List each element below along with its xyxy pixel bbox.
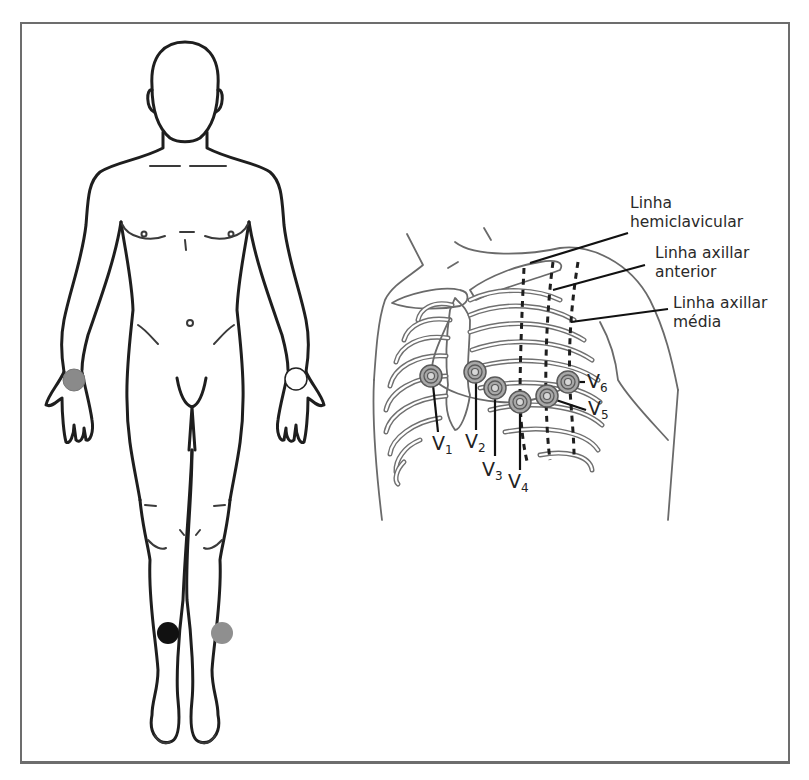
label-line2: média: [673, 313, 767, 332]
label-v2: V2: [465, 431, 486, 458]
lead-letter: V: [588, 397, 601, 419]
label-linha-hemiclavicular: Linha hemiclavicular: [630, 194, 743, 232]
lead-number: 2: [478, 441, 486, 455]
lead-number: 3: [495, 469, 503, 483]
electrode-v5: [536, 385, 558, 407]
electrode-v6: [557, 371, 579, 393]
label-line2: hemiclavicular: [630, 213, 743, 232]
label-line1: Linha: [630, 194, 743, 213]
label-v3: V3: [482, 459, 503, 486]
label-line2: anterior: [655, 263, 749, 282]
electrode-v2: [464, 361, 486, 383]
lead-number: 1: [445, 443, 453, 457]
precordial-electrodes: [0, 0, 809, 780]
lead-letter: V: [508, 470, 521, 492]
label-v4: V4: [508, 471, 529, 498]
electrode-v1: [420, 365, 442, 387]
label-linha-axillar-media: Linha axillar média: [673, 294, 767, 332]
lead-letter: V: [482, 458, 495, 480]
lead-letter: V: [432, 432, 445, 454]
label-v1: V1: [432, 433, 453, 460]
lead-letter: V: [587, 370, 600, 392]
lead-number: 4: [521, 481, 529, 495]
label-line1: Linha axillar: [673, 294, 767, 313]
label-linha-axillar-anterior: Linha axillar anterior: [655, 244, 749, 282]
lead-number: 5: [601, 408, 609, 422]
label-v6: V6: [587, 371, 608, 398]
lead-number: 6: [600, 381, 608, 395]
electrode-v3: [484, 377, 506, 399]
lead-letter: V: [465, 430, 478, 452]
label-line1: Linha axillar: [655, 244, 749, 263]
electrode-v4: [509, 391, 531, 413]
label-v5: V5: [588, 398, 609, 425]
